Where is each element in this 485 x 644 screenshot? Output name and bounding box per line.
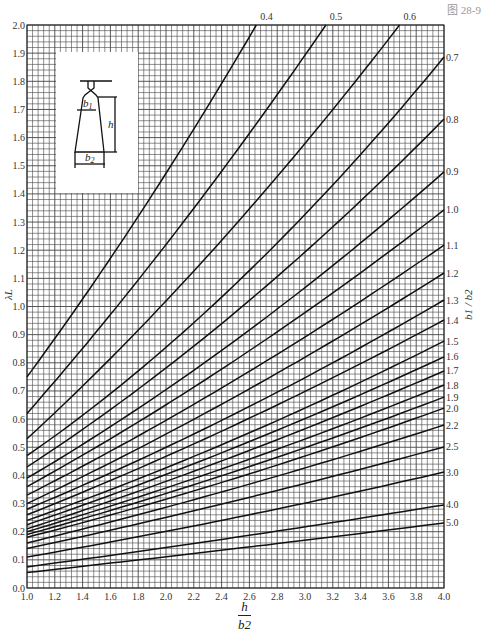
curve-label: 5.0 [446,517,459,528]
y-tick-label: 0.0 [13,583,26,594]
y-tick-label: 1.6 [13,132,26,143]
curve-b1-b2-5.0 [27,523,444,573]
y-tick-label: 1.5 [13,160,26,171]
x-tick-label: 3.8 [410,591,423,602]
x-axis-label-numerator: h [238,600,251,616]
x-tick-label: 1.8 [132,591,145,602]
y-tick-label: 0.5 [13,442,26,453]
curve-label: 1.5 [446,336,459,347]
curve-label: 0.4 [260,11,273,22]
curve-label: 1.4 [446,315,459,326]
y-tick-label: 1.0 [13,301,26,312]
curve-label: 1.8 [446,380,459,391]
curve-label: 1.0 [446,204,459,215]
nomogram-chart: b1 h b2 1.01.21.41.61.82.02.22.42.62.83.… [0,0,485,644]
curve-label: 0.6 [404,11,417,22]
curve-b1-b2-1.2 [27,273,444,504]
x-tick-label: 4.0 [438,591,451,602]
curve-label: 2.0 [446,403,459,414]
curve-label: 1.1 [446,240,459,251]
y-tick-label: 1.4 [13,188,26,199]
curve-label: 1.9 [446,392,459,403]
y-tick-label: 0.1 [13,554,26,565]
curve-b1-b2-0.9 [27,172,444,478]
curve-label: 0.5 [330,11,343,22]
curve-label: 2.5 [446,441,459,452]
curve-label: 4.0 [446,499,459,510]
y-axis-label: λL [2,289,14,301]
x-tick-label: 1.4 [76,591,89,602]
curve-b1-b2-4.0 [27,505,444,567]
x-tick-label: 2.2 [188,591,201,602]
y-tick-label: 0.9 [13,329,26,340]
curve-label: 1.2 [446,268,459,279]
curve-label: 2.2 [446,420,459,431]
curve-label: 0.9 [446,166,459,177]
y-tick-label: 1.1 [13,273,26,284]
x-tick-label: 1.2 [49,591,62,602]
curve-label: 1.3 [446,295,459,306]
y-tick-label: 0.2 [13,526,26,537]
curve-b1-b2-1.7 [27,371,444,529]
curve-b1-b2-1.1 [27,245,444,495]
y-tick-label: 0.7 [13,385,26,396]
x-tick-label: 2.8 [271,591,284,602]
curve-label: 1.7 [446,365,459,376]
curve-label: 0.8 [446,114,459,125]
curve-label: 1.6 [446,351,459,362]
x-tick-label: 1.6 [104,591,117,602]
x-tick-label: 3.6 [382,591,395,602]
y-tick-label: 1.8 [13,76,26,87]
y-tick-label: 1.7 [13,104,26,115]
x-tick-label: 2.4 [215,591,228,602]
curve-label: 0.7 [446,52,459,63]
x-tick-label: 3.4 [354,591,367,602]
y-tick-label: 1.3 [13,217,26,228]
right-axis-label: b1 / b2 [462,289,474,320]
x-tick-label: 3.0 [299,591,312,602]
inset-label-h: h [108,118,114,130]
x-tick-label: 2.0 [160,591,173,602]
x-axis-label-denominator: b2 [238,616,251,631]
curve-b1-b2-2.2 [27,425,444,543]
y-tick-label: 2.0 [13,20,26,31]
inset-diagram: b1 h b2 [56,52,138,193]
y-tick-label: 1.9 [13,48,26,59]
x-axis-label: h b2 [238,600,251,631]
y-tick-label: 0.8 [13,357,26,368]
y-tick-label: 0.4 [13,470,26,481]
y-tick-label: 0.3 [13,498,26,509]
x-tick-label: 3.2 [327,591,340,602]
y-tick-label: 1.2 [13,245,26,256]
curve-b1-b2-1.9 [27,397,444,534]
y-tick-label: 0.6 [13,414,26,425]
curve-label: 3.0 [446,467,459,478]
curve-b1-b2-1.4 [27,320,444,515]
